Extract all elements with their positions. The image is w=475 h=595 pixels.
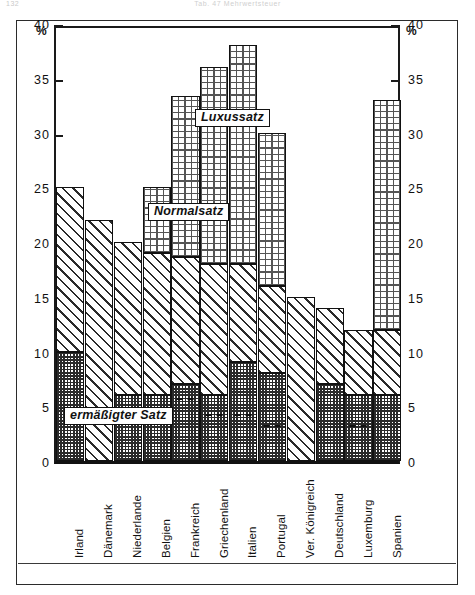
segment-reduced [171,384,199,461]
segment-standard [114,242,142,395]
y-tick-label-left-35: 35 [20,73,50,87]
x-tick-label-spanien: Spanien [391,515,403,558]
y-tick-label-left-15: 15 [20,292,50,306]
segment-standard [258,286,286,374]
y-tick-label-right-30: 30 [408,128,438,142]
legend-tag-standard: Normalsatz [148,203,229,221]
bar-luxemburg [344,330,372,461]
x-tick-label-portugal: Portugal [275,514,287,558]
y-tick-label-left-25: 25 [20,182,50,196]
y-tick-label-left-30: 30 [20,128,50,142]
segment-standard [229,264,257,363]
bar-italien [229,45,257,461]
sub-rate-marker [264,425,281,427]
y-tick-label-right-20: 20 [408,237,438,251]
bar-portugal [258,133,286,462]
bar-frankreich [171,96,199,461]
sub-rate-marker [235,414,252,416]
y-tick-label-right-25: 25 [408,182,438,196]
x-tick-label-belgien: Belgien [160,519,172,558]
segment-standard [373,330,401,396]
segment-reduced [200,395,228,461]
bar-spanien [373,100,401,461]
y-tick-label-right-10: 10 [408,347,438,361]
bar-group [56,28,398,461]
x-tick-label-d-nemark: Dänemark [102,504,114,558]
segment-luxury [258,133,286,286]
x-tick-label-niederlande: Niederlande [131,495,143,558]
running-head: 132 Tab. 47 Mehrwertsteuer [0,0,475,12]
segment-reduced [229,362,257,461]
x-axis-labels: IrlandDänemarkNiederlandeBelgienFrankrei… [54,470,400,562]
x-tick-label-ver-k-nigreich: Ver. Königreich [304,479,316,558]
figure-page: 132 Tab. 47 Mehrwertsteuer % % 404035353… [0,0,475,595]
segment-luxury [373,100,401,330]
segment-standard [56,187,84,351]
y-tick-label-left-0: 0 [20,456,50,470]
y-tick-label-right-0: 0 [408,456,438,470]
bar-deutschland [316,308,344,461]
figure-bottom-rule [18,563,456,564]
segment-reduced [114,395,142,461]
x-tick-label-irland: Irland [73,529,85,558]
y-tick-label-left-5: 5 [20,401,50,415]
segment-reduced [373,395,401,461]
segment-standard [316,308,344,385]
y-tick-label-right-40: 40 [408,18,438,32]
segment-standard [344,330,372,396]
y-tick-label-right-5: 5 [408,401,438,415]
running-title: Tab. 47 Mehrwertsteuer [0,0,475,7]
legend-tag-reduced: ermäßigter Satz [64,407,173,425]
plot-area: Luxussatz Normalsatz ermäßigter Satz [54,26,400,464]
bar-niederlande [114,242,142,461]
segment-reduced [258,373,286,461]
legend-tag-luxury: Luxussatz [195,109,270,127]
segment-standard [171,257,199,384]
segment-reduced [143,395,171,461]
y-tick-label-left-10: 10 [20,347,50,361]
segment-standard [287,297,315,461]
segment-reduced [344,395,372,461]
bar-ver-k-nigreich [287,297,315,461]
y-tick-label-left-40: 40 [20,18,50,32]
x-tick-label-italien: Italien [246,527,258,558]
sub-rate-marker [206,414,223,416]
x-tick-label-deutschland: Deutschland [333,493,345,558]
sub-rate-marker [350,425,367,427]
x-tick-label-luxemburg: Luxemburg [362,500,374,558]
segment-luxury [229,45,257,264]
x-tick-label-frankreich: Frankreich [189,503,201,558]
sub-rate-marker [177,398,194,400]
y-tick-label-left-20: 20 [20,237,50,251]
segment-reduced [316,384,344,461]
segment-standard [143,253,171,395]
segment-luxury [200,67,228,264]
segment-standard [200,264,228,395]
y-tick-label-right-35: 35 [408,73,438,87]
y-tick-label-right-15: 15 [408,292,438,306]
x-tick-label-griechenland: Griechenland [218,488,230,558]
